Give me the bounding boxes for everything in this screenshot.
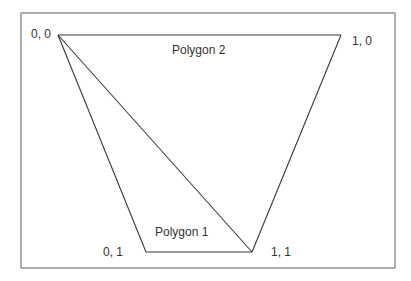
vertex-label-1-0: 1, 0	[352, 34, 372, 48]
polygon-2	[58, 35, 341, 252]
edge-v10-v11	[252, 35, 341, 252]
diagram-canvas: 0, 0 1, 0 0, 1 1, 1 Polygon 1 Polygon 2	[0, 0, 411, 281]
edge-v00-v01	[58, 35, 146, 252]
polygon-2-label: Polygon 2	[172, 43, 226, 57]
shared-edge-v00-v11	[58, 35, 252, 252]
polygon-1-label: Polygon 1	[155, 225, 209, 239]
vertex-label-0-1: 0, 1	[103, 245, 123, 259]
vertex-label-0-0: 0, 0	[31, 27, 51, 41]
vertex-label-1-1: 1, 1	[271, 245, 291, 259]
